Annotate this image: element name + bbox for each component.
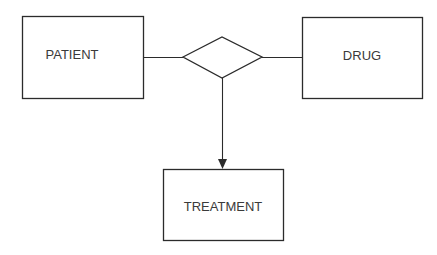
entity-patient-label: PATIENT (22, 47, 122, 62)
arrowhead-icon (218, 159, 227, 169)
relationship-diamond (183, 37, 262, 78)
entity-treatment-label: TREATMENT (163, 199, 283, 214)
er-diagram (0, 0, 437, 255)
entity-drug-label: DRUG (302, 48, 422, 63)
